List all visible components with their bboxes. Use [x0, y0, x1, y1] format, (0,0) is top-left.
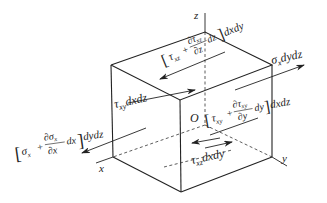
label-tau-xz-top: [ τxz + ∂τxz ∂z dz ] dxdy: [157, 14, 248, 69]
sigma-x-right-arrow: [235, 65, 304, 90]
svg-text:dydz: dydz: [82, 127, 104, 142]
x-axis-label: x: [98, 162, 104, 174]
label-sigma-x-right: σxdydz: [270, 47, 304, 69]
svg-text:∂τxy: ∂τxy: [232, 97, 248, 111]
y-axis-label: y: [281, 152, 287, 164]
origin-label: O: [190, 111, 199, 125]
svg-text:dx: dx: [66, 134, 77, 146]
stress-element-diagram: z x y O [ τxz + ∂τxz ∂z dz ] dxdy σxdydz…: [0, 0, 327, 203]
svg-text:σx: σx: [21, 144, 32, 160]
label-tau-xz-bottom: τxzdxdy: [190, 146, 227, 169]
svg-text:+: +: [36, 141, 43, 153]
svg-text:∂z: ∂z: [192, 43, 204, 57]
svg-text:τxy: τxy: [210, 110, 223, 127]
label-tau-xy-right: [ τxy + ∂τxy ∂y dy ] dxdz: [202, 89, 293, 129]
svg-text:dxdy: dxdy: [222, 19, 246, 38]
label-sigma-x-left: [ σx + ∂σx ∂x dx ] dydz: [12, 123, 106, 163]
svg-text:τxz: τxz: [167, 47, 182, 65]
svg-text:∂y: ∂y: [237, 110, 249, 123]
tau-xz-bottom-arrow-left: [192, 138, 220, 143]
svg-text:∂σx: ∂σx: [43, 130, 57, 144]
svg-text:dxdz: dxdz: [269, 95, 292, 110]
svg-text:∂x: ∂x: [47, 144, 58, 156]
svg-text:dz: dz: [205, 31, 217, 45]
z-axis-label: z: [193, 9, 199, 21]
label-tau-xy-left: τxydxdz: [113, 90, 149, 113]
